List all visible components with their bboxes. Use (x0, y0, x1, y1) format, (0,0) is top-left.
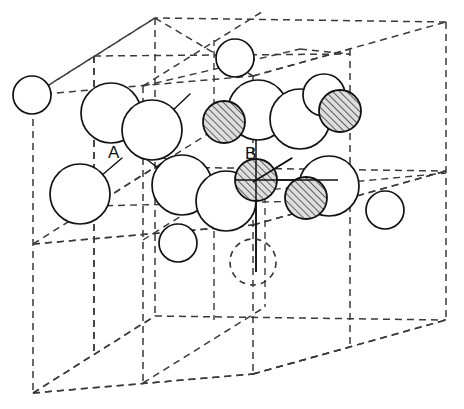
site-label-b: B (245, 144, 256, 163)
atom-open (366, 191, 404, 229)
atom-hatched (203, 101, 245, 143)
site-label-a: A (108, 143, 120, 162)
atom-open (50, 164, 110, 224)
atom-open (159, 224, 197, 262)
crystal-structure-figure: A B (0, 0, 464, 409)
atom-hatched (319, 90, 361, 132)
atom-open (122, 100, 182, 160)
unit-cell-svg: A B (0, 0, 464, 409)
atom-open (216, 39, 254, 77)
atom-open (13, 76, 51, 114)
atom-hatched (285, 177, 327, 219)
